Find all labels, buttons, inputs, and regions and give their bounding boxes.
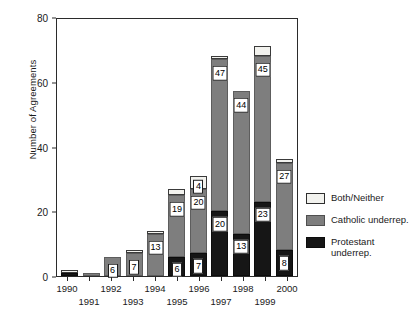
both-neither-swatch (306, 193, 325, 204)
bar-value-label-protestant-1999: 23 (255, 207, 270, 222)
bar-value-label-protestant-2000: 8 (279, 256, 289, 271)
bar-1990[interactable] (61, 19, 78, 276)
legend-item-protestant: Protestant underrep. (306, 236, 414, 258)
plot-area: 67136197204204713442345827 (56, 18, 298, 277)
bar-segment-catholic-1996: 20 (190, 189, 207, 254)
x-axis-label-1998: 1998 (232, 283, 253, 294)
legend-label-both-neither-line1: Both/Neither (331, 192, 384, 203)
legend-label-both-neither: Both/Neither (331, 192, 384, 203)
legend-label-protestant-line1: Protestant (331, 236, 374, 247)
bar-segment-both-neither-1999 (254, 46, 271, 56)
x-axis-label-1992: 1992 (100, 283, 121, 294)
bar-segment-both-neither-1995 (168, 189, 185, 195)
bar-value-label-catholic-1994: 13 (148, 241, 163, 256)
bar-segment-catholic-2000: 27 (276, 163, 293, 250)
bar-segment-catholic-1993: 7 (126, 253, 143, 276)
x-axis-label-1994: 1994 (144, 283, 165, 294)
bar-1992[interactable]: 6 (104, 19, 121, 276)
x-axis-label-1993: 1993 (122, 296, 143, 307)
bar-value-label-protestant-1998: 13 (234, 240, 249, 255)
bar-segment-protestant-1999: 23 (254, 202, 271, 276)
bar-1994[interactable]: 13 (147, 19, 164, 276)
x-axis-labels: 1990199119921993199419951996199719981999… (56, 281, 298, 323)
bar-value-label-catholic-1996: 20 (191, 195, 206, 210)
bar-1998[interactable]: 1344 (233, 19, 250, 276)
bar-value-label-protestant-1996: 7 (193, 259, 203, 274)
x-axis-label-1997: 1997 (210, 296, 231, 307)
bar-segment-both-neither-1993 (126, 250, 143, 253)
bar-segment-protestant-1998: 13 (233, 234, 250, 276)
bar-1997[interactable]: 2047 (211, 19, 228, 276)
bar-segment-both-neither-1990 (61, 270, 78, 273)
bar-value-label-both-neither-1996: 4 (193, 179, 203, 194)
bar-value-label-catholic-1997: 47 (212, 66, 227, 81)
bar-segment-catholic-1997: 47 (211, 59, 228, 211)
bar-value-label-catholic-2000: 27 (277, 169, 292, 184)
bar-1999[interactable]: 2345 (254, 19, 271, 276)
y-tick-label-40: 40 (37, 142, 48, 153)
x-axis-label-1999: 1999 (254, 296, 275, 307)
x-axis-label-1991: 1991 (78, 296, 99, 307)
y-tick-label-0: 0 (42, 272, 48, 283)
legend-label-catholic: Catholic underrep. (331, 214, 409, 225)
bar-2000[interactable]: 827 (276, 19, 293, 276)
bar-segment-protestant-1996: 7 (190, 253, 207, 276)
legend-label-protestant: Protestant underrep. (331, 236, 374, 258)
x-axis-label-1995: 1995 (166, 296, 187, 307)
legend-label-protestant-line2: underrep. (331, 247, 374, 258)
chart-legend: Both/Neither Catholic underrep. Protesta… (306, 192, 414, 268)
bar-segment-catholic-1991 (83, 273, 100, 276)
bar-segment-catholic-1995: 19 (168, 195, 185, 257)
bar-segment-both-neither-2000 (276, 159, 293, 162)
protestant-underrep-swatch (306, 237, 325, 248)
bar-segment-protestant-1995: 6 (168, 257, 185, 276)
bar-segment-protestant-2000: 8 (276, 250, 293, 276)
bar-1993[interactable]: 7 (126, 19, 143, 276)
y-tick-label-80: 80 (37, 13, 48, 24)
y-axis-ticks: 020406080 (0, 0, 56, 323)
x-axis-label-1990: 1990 (56, 283, 77, 294)
bar-value-label-catholic-1992: 6 (108, 263, 118, 278)
bar-segment-catholic-1999: 45 (254, 56, 271, 202)
bar-value-label-catholic-1999: 45 (255, 63, 270, 78)
bar-segment-protestant-1990 (61, 273, 78, 276)
bar-value-label-catholic-1993: 7 (129, 260, 139, 275)
x-axis-label-2000: 2000 (276, 283, 297, 294)
bar-1996[interactable]: 7204 (190, 19, 207, 276)
bar-1991[interactable] (83, 19, 100, 276)
y-tick-label-20: 20 (37, 207, 48, 218)
catholic-underrep-swatch (306, 215, 325, 226)
legend-item-both-neither: Both/Neither (306, 192, 414, 204)
bar-value-label-protestant-1997: 20 (212, 217, 227, 232)
bars-container: 67136197204204713442345827 (57, 19, 297, 276)
bar-segment-both-neither-1994 (147, 231, 164, 234)
bar-segment-catholic-1992: 6 (104, 257, 121, 276)
x-axis-label-1996: 1996 (188, 283, 209, 294)
bar-value-label-protestant-1995: 6 (172, 262, 182, 277)
legend-item-catholic: Catholic underrep. (306, 214, 414, 226)
bar-segment-both-neither-1997 (211, 56, 228, 59)
bar-segment-protestant-1997: 20 (211, 211, 228, 276)
bar-segment-catholic-1994: 13 (147, 234, 164, 276)
legend-label-catholic-line1: Catholic underrep. (331, 214, 409, 225)
y-tick-label-60: 60 (37, 77, 48, 88)
bar-1995[interactable]: 619 (168, 19, 185, 276)
stacked-bar-chart: Number of Agreements 020406080 671361972… (0, 0, 415, 323)
bar-segment-both-neither-1996: 4 (190, 176, 207, 189)
bar-value-label-catholic-1998: 44 (234, 98, 249, 113)
bar-segment-catholic-1998: 44 (233, 91, 250, 233)
bar-value-label-catholic-1995: 19 (169, 202, 184, 217)
